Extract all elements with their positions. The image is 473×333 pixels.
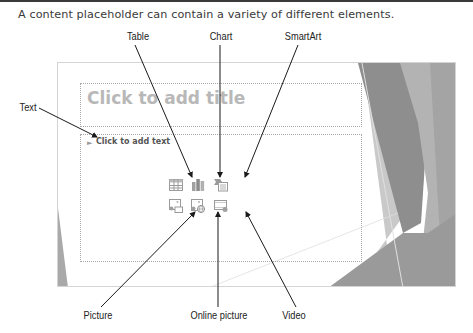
callout-smartart: SmartArt bbox=[285, 30, 321, 42]
insert-chart-icon[interactable] bbox=[191, 178, 205, 192]
callout-table: Table bbox=[127, 30, 149, 42]
insert-video-icon[interactable] bbox=[214, 199, 228, 213]
top-rule bbox=[0, 0, 473, 2]
title-placeholder[interactable]: Click to add title bbox=[80, 83, 362, 127]
figure-caption: A content placeholder can contain a vari… bbox=[18, 8, 394, 21]
title-placeholder-text: Click to add title bbox=[87, 88, 245, 108]
insert-picture-icon[interactable] bbox=[169, 199, 183, 213]
callout-video: Video bbox=[282, 309, 305, 321]
content-placeholder-text: Click to add text bbox=[96, 137, 170, 146]
callout-chart: Chart bbox=[210, 30, 233, 42]
content-placeholder[interactable]: ► Click to add text bbox=[80, 134, 362, 262]
callout-text: Text bbox=[20, 101, 37, 113]
insert-smartart-icon[interactable] bbox=[214, 178, 228, 192]
insert-table-icon[interactable] bbox=[169, 178, 183, 192]
callout-online-picture: Online picture bbox=[190, 309, 247, 321]
callout-picture: Picture bbox=[84, 309, 113, 321]
insert-online-picture-icon[interactable] bbox=[191, 199, 205, 213]
bullet-arrow-icon: ► bbox=[87, 139, 92, 147]
slide-canvas: Click to add title ► Click to add text bbox=[57, 62, 456, 287]
